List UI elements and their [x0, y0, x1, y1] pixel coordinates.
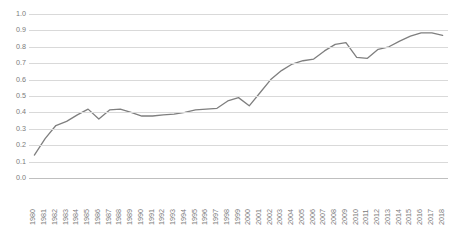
- gridline: [29, 112, 448, 113]
- x-axis-tick-label: 1993: [169, 209, 177, 225]
- gridline: [29, 162, 448, 163]
- x-axis-tick-label: 1980: [29, 209, 37, 225]
- x-axis-tick-label: 1996: [201, 209, 209, 225]
- y-axis-tick-label: 0.8: [2, 43, 26, 51]
- gridline: [29, 47, 448, 48]
- x-axis-tick-label: 1992: [158, 209, 166, 225]
- plot-area: 1.00.90.80.70.60.50.40.30.20.10.0 198019…: [0, 0, 454, 225]
- line-chart: 1.00.90.80.70.60.50.40.30.20.10.0 198019…: [0, 0, 454, 225]
- x-axis-tick-label: 1983: [62, 209, 70, 225]
- x-axis-tick-label: 1999: [234, 209, 242, 225]
- data-series-line: [34, 33, 442, 155]
- gridline: [29, 80, 448, 81]
- x-axis-tick-label: 2014: [395, 209, 403, 225]
- y-axis-tick-label: 1.0: [2, 10, 26, 18]
- x-axis-tick-label: 2003: [276, 209, 284, 225]
- gridline: [29, 96, 448, 97]
- x-axis-tick-label: 1990: [137, 209, 145, 225]
- x-axis-tick-label: 2008: [330, 209, 338, 225]
- x-axis-tick-label: 2005: [298, 209, 306, 225]
- x-axis-tick-label: 1994: [180, 209, 188, 225]
- x-axis-tick-label: 1998: [223, 209, 231, 225]
- x-axis-tick-label: 1985: [83, 209, 91, 225]
- x-axis-tick-label: 2004: [287, 209, 295, 225]
- x-axis-tick-label: 1981: [40, 209, 48, 225]
- x-axis-tick-label: 1988: [115, 209, 123, 225]
- x-axis-tick-label: 2015: [405, 209, 413, 225]
- x-axis-tick-label: 2001: [255, 209, 263, 225]
- gridline: [29, 145, 448, 146]
- x-axis-tick-label: 1987: [105, 209, 113, 225]
- x-axis-tick-label: 1984: [72, 209, 80, 225]
- x-axis-tick-label: 2010: [352, 209, 360, 225]
- x-axis-tick-label: 2006: [309, 209, 317, 225]
- y-axis-tick-label: 0.3: [2, 125, 26, 133]
- gridline: [29, 129, 448, 130]
- y-axis-tick-label: 0.1: [2, 158, 26, 166]
- x-axis-tick-label: 2002: [266, 209, 274, 225]
- y-axis-tick-label: 0.4: [2, 108, 26, 116]
- y-axis-tick-label: 0.6: [2, 76, 26, 84]
- x-axis: 1980198119821983198419851986198719881989…: [29, 179, 448, 225]
- x-axis-tick-label: 2000: [244, 209, 252, 225]
- x-axis-tick-label: 2018: [438, 209, 446, 225]
- y-axis-tick-label: 0.2: [2, 141, 26, 149]
- x-axis-tick-label: 2016: [416, 209, 424, 225]
- x-axis-tick-label: 2017: [427, 209, 435, 225]
- y-axis-tick-label: 0.9: [2, 26, 26, 34]
- gridline: [29, 30, 448, 31]
- x-axis-tick-label: 2009: [341, 209, 349, 225]
- y-axis-tick-label: 0.5: [2, 92, 26, 100]
- x-axis-tick-label: 2011: [362, 210, 370, 225]
- x-axis-tick-label: 1989: [126, 209, 134, 225]
- x-axis-tick-label: 2013: [384, 209, 392, 225]
- x-axis-tick-label: 2012: [373, 209, 381, 225]
- gridline: [29, 63, 448, 64]
- gridline: [29, 14, 448, 15]
- x-axis-tick-label: 1997: [212, 209, 220, 225]
- x-axis-tick-label: 1986: [94, 209, 102, 225]
- x-axis-tick-label: 1982: [51, 209, 59, 225]
- x-axis-tick-label: 1995: [191, 209, 199, 225]
- x-axis-tick-label: 1991: [148, 209, 156, 225]
- x-axis-tick-label: 2007: [319, 209, 327, 225]
- y-axis-tick-label: 0.7: [2, 59, 26, 67]
- y-axis: 1.00.90.80.70.60.50.40.30.20.10.0: [0, 0, 26, 225]
- y-axis-tick-label: 0.0: [2, 174, 26, 182]
